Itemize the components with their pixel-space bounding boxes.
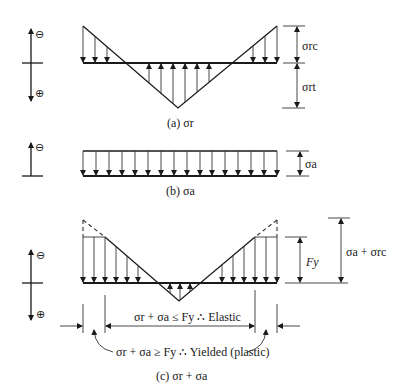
axial-stress-arrows <box>83 151 277 175</box>
plus-sign-icon: ⊕ <box>35 87 44 100</box>
elastic-zone-label: σr + σa ≤ Fy ∴ Elastic <box>134 310 241 324</box>
sigma-a-label: σa <box>305 157 317 171</box>
sign-axis-c: ⊖ ⊕ <box>22 249 45 321</box>
residual-stress-diagram: ⊖ ⊕ σrc σrt (a <box>0 0 395 387</box>
caption-a: (a) σr <box>167 116 194 130</box>
sign-axis-a: ⊖ ⊕ <box>22 28 44 101</box>
yielded-zone-label: σr + σa ≥ Fy ∴ Yielded (plastic) <box>116 345 269 359</box>
residual-stress-profile <box>83 26 277 108</box>
plus-sign-icon: ⊕ <box>36 308 45 321</box>
sigma-rt-label: σrt <box>302 80 316 94</box>
minus-sign-icon: ⊖ <box>35 28 44 41</box>
panel-b: ⊖ σa (b) σa <box>22 141 317 198</box>
sigma-a-plus-sigma-rc-label: σa + σrc <box>346 245 386 259</box>
panel-c: ⊖ ⊕ <box>22 218 386 383</box>
minus-sign-icon: ⊖ <box>36 249 45 262</box>
dimension-b: σa <box>286 151 317 176</box>
minus-sign-icon: ⊖ <box>35 141 44 154</box>
fy-label: Fy <box>305 255 319 269</box>
panel-a: ⊖ ⊕ σrc σrt (a <box>22 26 318 130</box>
dimension-c: Fy σa + σrc <box>285 218 386 283</box>
caption-c: (c) σr + σa <box>156 369 208 383</box>
caption-b: (b) σa <box>166 184 195 198</box>
dimension-a: σrc σrt <box>282 26 318 108</box>
sign-axis-b: ⊖ <box>22 141 44 176</box>
sigma-rc-label: σrc <box>302 39 318 53</box>
